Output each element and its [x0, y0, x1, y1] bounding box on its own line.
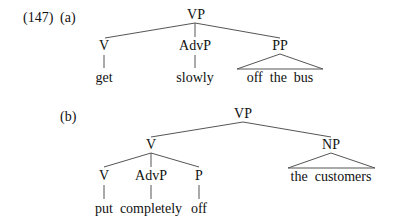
words-the-customers: the customers — [291, 169, 372, 184]
word-completely: completely — [120, 201, 182, 216]
edge-vp-np-b — [243, 122, 331, 137]
tree-b: (b) VP V NP the customers V AdvP P put c… — [60, 106, 375, 216]
part-a-label: (a) — [60, 10, 76, 26]
tree-a: (147) (a) VP V AdvP PP get slowly off th… — [23, 7, 323, 85]
word-put: put — [95, 201, 113, 216]
node-v-b: V — [146, 137, 156, 152]
words-off-the-bus: off the bus — [247, 70, 314, 85]
word-off: off — [191, 201, 207, 216]
example-number: (147) — [23, 10, 54, 26]
node-np-b: NP — [322, 137, 340, 152]
word-get: get — [95, 70, 112, 85]
triangle-pp — [237, 54, 323, 69]
node-advp-a: AdvP — [179, 38, 211, 53]
word-slowly: slowly — [176, 70, 213, 85]
node-v-a: V — [99, 38, 109, 53]
node-p-inner: P — [195, 168, 203, 183]
node-pp-a: PP — [272, 38, 288, 53]
node-vp-a: VP — [187, 7, 205, 22]
node-advp-inner: AdvP — [135, 168, 167, 183]
edge-vp-v-a — [105, 23, 195, 38]
edge-vp-v-b — [151, 122, 243, 137]
part-b-label: (b) — [60, 109, 77, 125]
edge-v-p-b — [151, 153, 199, 167]
node-vp-b: VP — [234, 106, 252, 121]
edge-vp-pp-a — [195, 23, 280, 38]
triangle-np — [288, 153, 375, 168]
syntax-trees: (147) (a) VP V AdvP PP get slowly off th… — [0, 0, 396, 222]
node-v-inner: V — [99, 168, 109, 183]
edge-v-v-b — [104, 153, 151, 167]
